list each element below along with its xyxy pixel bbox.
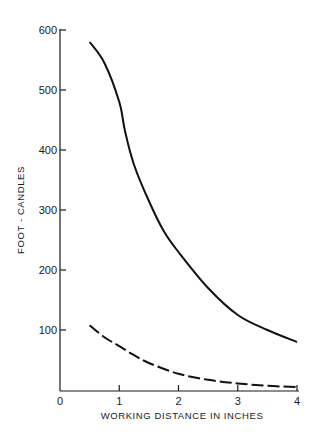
chart: 100200300400500600 01234 WORKING DISTANC… (0, 0, 315, 437)
dashed-curve (90, 325, 297, 387)
y-tick-label: 300 (39, 204, 57, 216)
axes (60, 29, 299, 391)
y-tick-label: 200 (39, 264, 57, 276)
y-tick-label: 400 (39, 144, 57, 156)
x-tick-label: 1 (116, 395, 122, 407)
x-tick-label: 3 (235, 395, 241, 407)
y-axis-label: FOOT - CANDLES (15, 166, 26, 254)
y-tick-label: 500 (39, 84, 57, 96)
x-ticks: 01234 (57, 385, 300, 407)
y-tick-label: 600 (39, 24, 57, 36)
solid-curve (90, 42, 297, 342)
x-tick-label: 4 (294, 395, 300, 407)
x-axis-label: WORKING DISTANCE IN INCHES (101, 410, 264, 421)
x-tick-label: 0 (57, 395, 63, 407)
series (90, 42, 297, 387)
y-tick-label: 100 (39, 324, 57, 336)
x-tick-label: 2 (175, 395, 181, 407)
y-ticks: 100200300400500600 (39, 24, 66, 336)
